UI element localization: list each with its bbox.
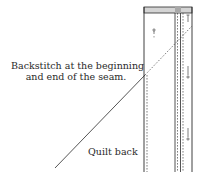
- backstitch-annotation-line1: Backstitch at the beginning: [11, 60, 141, 71]
- quilt-back-label: Quilt back: [88, 146, 138, 157]
- pin-icon: [187, 66, 189, 78]
- backstitch-annotation: Backstitch at the beginning and end of t…: [11, 60, 141, 82]
- pin-icon: [187, 15, 190, 22]
- pin-icon: [187, 128, 189, 140]
- leader-line-dashed: [145, 26, 192, 75]
- backstitch-annotation-line2: and end of the seam.: [11, 71, 141, 82]
- binding-strip: [144, 7, 192, 13]
- binding-strip-seam: [175, 7, 181, 13]
- pin-icon: [153, 29, 155, 38]
